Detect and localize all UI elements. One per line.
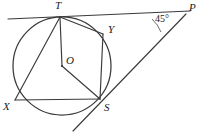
label-X: X bbox=[2, 100, 11, 112]
label-P: P bbox=[188, 1, 196, 13]
label-O: O bbox=[66, 54, 74, 66]
radius-OT bbox=[60, 17, 62, 66]
geometry-canvas: T Y P O X S 45° bbox=[0, 0, 199, 132]
label-Y: Y bbox=[108, 23, 116, 35]
chord-SX bbox=[15, 99, 100, 100]
label-T: T bbox=[55, 0, 62, 11]
radius-OS bbox=[62, 66, 100, 99]
center-point-marker bbox=[61, 65, 63, 67]
label-S: S bbox=[104, 101, 110, 113]
chord-YS bbox=[100, 34, 103, 99]
geometry-figure: T Y P O X S 45° bbox=[0, 0, 199, 132]
secant-line-SP bbox=[73, 14, 186, 131]
chord-TY bbox=[60, 17, 103, 34]
chord-XT bbox=[15, 17, 60, 100]
angle-label-45-degrees: 45° bbox=[155, 13, 169, 24]
